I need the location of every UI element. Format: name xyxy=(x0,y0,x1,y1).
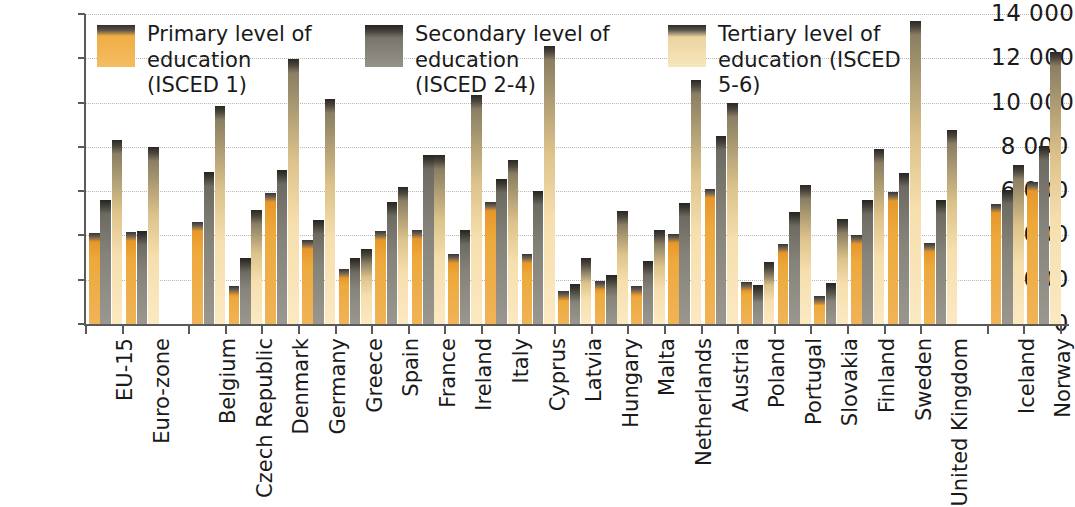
bar-primary xyxy=(705,189,716,324)
x-axis-label: Hungary xyxy=(621,338,642,428)
bar-tertiary xyxy=(947,130,958,324)
bar-primary xyxy=(192,222,203,324)
bar-tertiary xyxy=(1013,165,1024,324)
x-axis-tick-mark xyxy=(774,326,776,334)
y-axis-tick-mark xyxy=(78,102,85,104)
bar-primary xyxy=(485,202,496,324)
bar-primary xyxy=(741,282,752,324)
x-axis-tick-mark xyxy=(987,326,989,334)
x-axis-label: Netherlands xyxy=(694,338,715,466)
x-axis-label: Spain xyxy=(401,338,422,397)
bar-primary xyxy=(339,269,350,324)
x-axis-label: Iceland xyxy=(1017,338,1038,414)
bar-primary xyxy=(302,240,313,324)
bar-tertiary xyxy=(325,99,336,324)
bar-primary xyxy=(522,254,533,324)
bar-tertiary xyxy=(471,95,482,324)
bar-secondary xyxy=(826,283,837,324)
bar-secondary xyxy=(606,275,617,324)
bar-tertiary xyxy=(508,160,519,324)
bar-primary xyxy=(888,192,899,324)
bar-tertiary xyxy=(617,211,628,324)
x-axis-label: EU-15 xyxy=(115,338,136,401)
bar-tertiary xyxy=(691,80,702,324)
legend-label-tertiary: Tertiary level of education (ISCED 5-6) xyxy=(718,22,918,99)
x-axis-tick-mark xyxy=(1023,326,1025,334)
x-axis-label: Czech Republic xyxy=(255,338,276,498)
bar-primary xyxy=(265,193,276,324)
bar-secondary xyxy=(100,200,111,324)
x-axis-label: Belgium xyxy=(218,338,239,424)
bar-secondary xyxy=(570,284,581,324)
bar-primary xyxy=(412,230,423,324)
x-axis-tick-mark xyxy=(85,326,87,334)
bar-primary xyxy=(631,286,642,324)
bar-secondary xyxy=(789,212,800,324)
bar-tertiary xyxy=(800,185,811,325)
bar-secondary xyxy=(936,200,947,324)
bar-secondary xyxy=(496,179,507,324)
bar-primary xyxy=(814,296,825,324)
bar-secondary xyxy=(277,170,288,324)
bar-primary xyxy=(851,235,862,324)
y-axis-tick-mark xyxy=(78,190,85,192)
legend-label-primary: Primary level of education (ISCED 1) xyxy=(147,22,327,99)
x-axis-tick-mark xyxy=(122,326,124,334)
bar-secondary xyxy=(423,155,434,324)
bar-secondary xyxy=(137,231,148,324)
x-axis-tick-mark xyxy=(518,326,520,334)
y-axis-tick-mark xyxy=(78,279,85,281)
x-axis-label: Malta xyxy=(657,338,678,396)
x-axis-label: Portugal xyxy=(804,338,825,425)
bar-secondary xyxy=(387,202,398,324)
bar-primary xyxy=(558,291,569,324)
bar-tertiary xyxy=(1050,52,1061,324)
bar-primary xyxy=(89,233,100,324)
legend-swatch-tertiary-icon xyxy=(668,25,706,67)
x-axis-label: Finland xyxy=(877,338,898,413)
x-axis-label: Cyprus xyxy=(548,338,569,411)
bar-secondary xyxy=(899,173,910,324)
bar-tertiary xyxy=(112,140,123,324)
x-axis-tick-mark xyxy=(225,326,227,334)
bar-tertiary xyxy=(148,147,159,324)
x-axis-tick-mark xyxy=(920,326,922,334)
bar-secondary xyxy=(1039,146,1050,324)
bar-tertiary xyxy=(434,155,445,324)
bar-primary xyxy=(448,254,459,324)
legend-label-secondary: Secondary level of education (ISCED 2-4) xyxy=(415,22,665,99)
x-axis-tick-mark xyxy=(1060,326,1062,334)
x-axis-tick-mark xyxy=(554,326,556,334)
x-axis-label: Greece xyxy=(365,338,386,413)
x-axis-label: France xyxy=(438,338,459,408)
bar-primary xyxy=(126,232,137,324)
x-axis-tick-mark xyxy=(408,326,410,334)
x-axis-tick-mark xyxy=(371,326,373,334)
bar-secondary xyxy=(460,230,471,324)
x-axis-tick-mark xyxy=(847,326,849,334)
x-axis-tick-mark xyxy=(261,326,263,334)
bar-secondary xyxy=(313,220,324,324)
y-axis-tick-mark xyxy=(78,57,85,59)
x-axis-tick-mark xyxy=(627,326,629,334)
bar-primary xyxy=(229,286,240,324)
bar-secondary xyxy=(862,200,873,324)
x-axis-tick-mark xyxy=(335,326,337,334)
bar-secondary xyxy=(643,261,654,324)
x-axis-tick-mark xyxy=(188,326,190,334)
bar-secondary xyxy=(350,258,361,324)
bar-tertiary xyxy=(398,187,409,324)
bar-tertiary xyxy=(837,219,848,324)
legend-swatch-secondary-icon xyxy=(365,25,403,67)
bar-secondary xyxy=(716,136,727,324)
bar-primary xyxy=(375,231,386,324)
bar-secondary xyxy=(240,258,251,324)
x-axis-label: Norway xyxy=(1053,338,1074,418)
x-axis-tick-mark xyxy=(481,326,483,334)
x-axis-label: Poland xyxy=(767,338,788,408)
x-axis-tick-mark xyxy=(737,326,739,334)
x-axis-label: Ireland xyxy=(474,338,495,411)
bar-tertiary xyxy=(727,103,738,324)
legend-item-primary: Primary level of education (ISCED 1) xyxy=(97,22,327,99)
